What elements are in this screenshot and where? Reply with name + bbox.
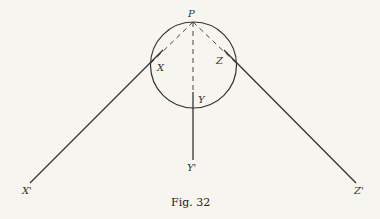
label-z-prime: Z'	[353, 185, 364, 196]
label-y-prime: Y'	[187, 162, 196, 173]
label-x-prime: X'	[21, 185, 32, 196]
figure-caption: Fig. 32	[171, 196, 210, 209]
label-y: Y	[198, 94, 206, 105]
label-z: Z	[215, 55, 224, 66]
line-z-zprime	[224, 50, 356, 183]
line-x-xprime	[30, 50, 163, 183]
label-x: X	[156, 62, 165, 73]
diagram-canvas: P X Z Y X' Y' Z' Fig. 32	[0, 0, 380, 219]
label-p: P	[187, 8, 195, 19]
